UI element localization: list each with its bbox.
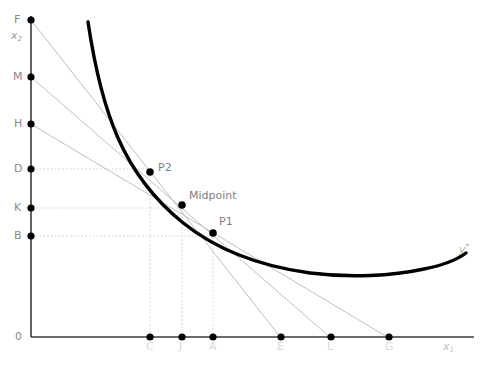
label-P1: P1 [219, 216, 233, 227]
isoquant-curve [88, 22, 466, 276]
guide-lines [32, 169, 213, 336]
isocost-line-F-E [31, 20, 281, 338]
label-D: D [14, 163, 22, 174]
point-midpoint[interactable] [178, 201, 186, 209]
label-C: C [146, 341, 154, 352]
x-axis-title-sub: 1 [450, 346, 454, 354]
label-L: L [327, 341, 333, 352]
label-H: H [14, 118, 22, 129]
isoquant-label: y* [459, 244, 470, 255]
isoquant-diagram: F M H D K B 0 x2 C J A E L G x1 P2 Midpo… [0, 0, 486, 367]
y-axis-title-sub: 2 [18, 35, 22, 43]
x-axis-title: x1 [443, 341, 454, 354]
label-A: A [209, 341, 217, 352]
isoquant-label-sup: * [466, 243, 470, 252]
label-B: B [14, 230, 22, 241]
point-K[interactable] [27, 204, 34, 211]
point-D[interactable] [27, 165, 34, 172]
y-axis-title: x2 [11, 30, 22, 43]
point-P1[interactable] [209, 229, 217, 237]
isocost-lines [31, 20, 389, 338]
point-B[interactable] [27, 232, 34, 239]
label-J: J [179, 341, 182, 352]
label-G: G [385, 341, 394, 352]
point-F[interactable] [27, 16, 34, 23]
label-midpoint: Midpoint [189, 190, 237, 201]
point-P2[interactable] [146, 168, 154, 176]
point-H[interactable] [27, 120, 34, 127]
label-P2: P2 [158, 162, 172, 173]
label-K: K [14, 202, 21, 213]
label-M: M [13, 71, 23, 82]
label-E: E [277, 341, 284, 352]
curve-points [146, 168, 217, 237]
plot-canvas [0, 0, 486, 367]
point-M[interactable] [27, 73, 34, 80]
label-F: F [14, 14, 20, 25]
label-origin: 0 [15, 331, 22, 342]
